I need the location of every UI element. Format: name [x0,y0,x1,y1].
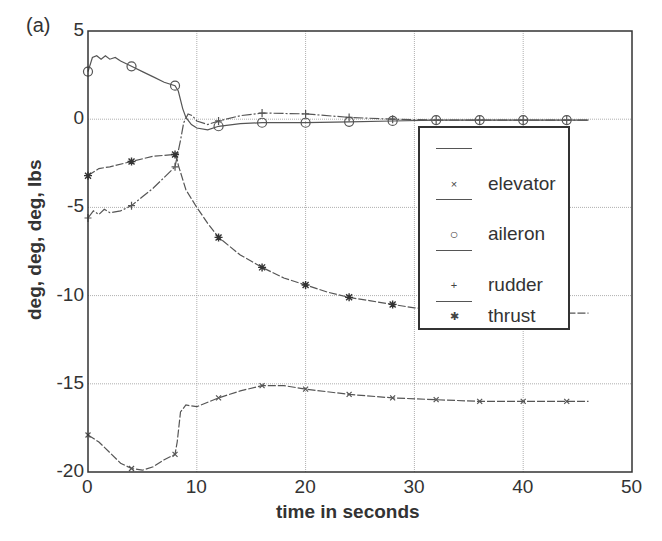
star-marker-icon: ✱ [444,304,464,328]
legend-line [436,301,472,302]
legend-item-aileron: ○ aileron [420,222,568,246]
series-elevator [86,383,589,471]
y-tick-label: -15 [57,372,84,394]
x-tick-label: 20 [295,476,316,498]
x-tick-label: 40 [512,476,533,498]
y-tick-label: 0 [73,107,84,129]
y-tick-label: -5 [67,195,84,217]
elevator-line [88,386,589,471]
legend: × elevator ○ aileron + rudder ✱ thrust [418,126,570,330]
star-marker-icon [258,263,266,271]
y-tick-label: -20 [57,460,84,482]
star-marker-icon [215,233,223,241]
legend-label: thrust [488,304,536,328]
star-marker-icon [389,300,397,308]
legend-item-elevator: × elevator [420,172,568,196]
star-marker-icon [345,293,353,301]
legend-label: elevator [488,172,556,196]
y-axis-label: deg, deg, deg, lbs [24,160,46,320]
x-tick-label: 50 [621,476,642,498]
plus-marker-icon [563,116,570,124]
plus-marker-icon [346,113,353,121]
circle-marker-icon: ○ [444,222,464,246]
star-marker-icon [171,150,179,158]
plus-marker-icon [215,117,222,125]
x-tick-label: 10 [186,476,207,498]
x-marker-icon: × [444,172,464,196]
y-tick-label: -10 [57,284,84,306]
plus-marker-icon [433,116,440,124]
star-marker-icon [302,281,310,289]
x-tick-label: 30 [403,476,424,498]
legend-line [436,250,472,251]
plus-marker-icon [476,116,483,124]
panel-label: (a) [26,14,50,37]
x-tick-label: 0 [82,476,93,498]
legend-line [436,199,472,200]
legend-label: rudder [488,273,543,297]
legend-line [436,148,472,149]
plus-marker-icon [302,110,309,118]
y-tick-label: 5 [73,19,84,41]
legend-label: aileron [488,222,545,246]
plus-marker-icon [259,109,266,117]
plus-marker-icon: + [444,273,464,297]
aileron-line [88,56,589,130]
plus-marker-icon [389,115,396,123]
star-marker-icon [128,158,136,166]
x-axis-label: time in seconds [276,501,420,523]
plus-marker-icon [520,116,527,124]
legend-item-rudder: + rudder [420,273,568,297]
legend-item-thrust: ✱ thrust [420,304,568,328]
